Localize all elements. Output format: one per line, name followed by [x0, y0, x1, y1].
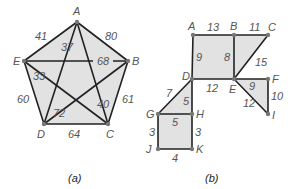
vertex-b-J — [156, 147, 160, 151]
weight-b-GJ: 3 — [149, 126, 156, 138]
weight-a-BC: 61 — [122, 93, 134, 105]
weight-b-DH: 5 — [183, 95, 190, 107]
vertex-label-b-D: D — [182, 70, 190, 82]
vertex-a-E — [22, 59, 26, 63]
vertex-b-K — [190, 147, 194, 151]
weight-b-EI: 12 — [243, 97, 255, 109]
weight-b-CE: 15 — [255, 56, 268, 68]
vertex-b-F — [266, 77, 270, 81]
vertex-label-b-G: G — [146, 108, 155, 120]
vertex-label-a-A: A — [72, 5, 80, 17]
weight-b-BC: 11 — [249, 21, 260, 33]
caption-a: (a) — [68, 172, 82, 184]
weight-a-EC: 33 — [33, 70, 46, 82]
vertex-label-b-F: F — [272, 73, 280, 85]
vertex-label-a-D: D — [37, 128, 45, 140]
vertex-label-a-E: E — [13, 55, 21, 67]
weight-b-AB: 13 — [207, 21, 220, 33]
vertex-label-b-A: A — [187, 20, 195, 32]
weight-b-HK: 3 — [195, 126, 202, 138]
vertex-a-B — [126, 59, 130, 63]
weight-a-EB: 68 — [97, 55, 110, 67]
weight-a-AB: 80 — [105, 30, 118, 42]
weight-a-AE: 41 — [35, 30, 47, 42]
weight-b-BE: 8 — [224, 51, 231, 63]
vertex-label-b-J: J — [145, 143, 152, 155]
vertex-label-b-E: E — [229, 83, 237, 95]
weight-b-GH: 5 — [172, 116, 179, 128]
weight-b-FI: 10 — [271, 90, 284, 102]
figure-b: A B C D E F G H I J K 13 11 9 8 15 12 9 … — [145, 20, 284, 184]
vertex-label-b-H: H — [196, 108, 204, 120]
vertex-b-D — [190, 77, 194, 81]
vertex-b-A — [191, 33, 195, 37]
weight-a-AD: 37 — [61, 41, 74, 53]
vertex-label-b-B: B — [230, 20, 237, 32]
weight-b-AD: 9 — [196, 51, 202, 63]
graph-figure: A B C D E 41 80 37 40 68 33 60 72 61 64 … — [0, 0, 293, 189]
vertex-b-C — [266, 33, 270, 37]
vertex-b-E — [232, 77, 236, 81]
vertex-a-D — [42, 122, 46, 126]
vertex-label-b-C: C — [268, 21, 276, 33]
vertex-label-b-K: K — [196, 143, 204, 155]
weight-b-JK: 4 — [172, 152, 178, 164]
vertex-b-B — [232, 33, 236, 37]
weight-a-AC: 40 — [97, 98, 110, 110]
vertex-a-C — [106, 122, 110, 126]
caption-b: (b) — [205, 172, 219, 184]
vertex-b-G — [156, 112, 160, 116]
vertex-b-H — [190, 112, 194, 116]
weight-b-EF: 9 — [249, 80, 255, 92]
weight-a-ED: 60 — [17, 93, 30, 105]
vertex-label-a-B: B — [132, 55, 139, 67]
vertex-a-A — [75, 20, 79, 24]
weight-b-DG: 7 — [166, 87, 173, 99]
vertex-label-b-I: I — [272, 109, 275, 121]
weight-a-DC: 64 — [68, 128, 80, 140]
edge-b-AD — [192, 35, 193, 79]
weight-b-DE: 12 — [206, 82, 218, 94]
figure-a: A B C D E 41 80 37 40 68 33 60 72 61 64 … — [13, 5, 139, 184]
weight-a-BD: 72 — [53, 107, 65, 119]
vertex-label-a-C: C — [106, 128, 114, 140]
vertex-b-I — [266, 112, 270, 116]
